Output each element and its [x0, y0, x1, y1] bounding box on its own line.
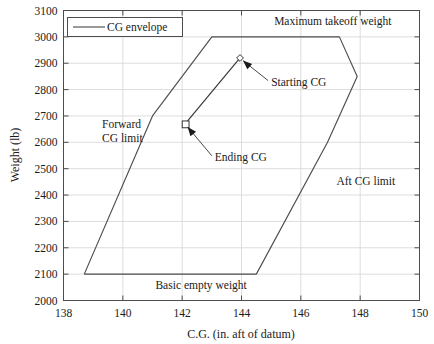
y-tick-label: 3000: [35, 31, 58, 43]
y-tick-label: 2500: [35, 163, 58, 175]
x-axis-title: C.G. (in. aft of datum): [187, 327, 295, 341]
cg-envelope-chart: 138140142144146148150 200021002200230024…: [0, 0, 434, 344]
y-tick-label: 2400: [35, 189, 58, 201]
y-axis-title: Weight (lb): [8, 128, 22, 183]
y-tick-label: 2300: [35, 215, 58, 227]
y-tick-label: 2700: [35, 110, 58, 122]
y-tick-label: 2900: [35, 57, 58, 69]
y-tick-label: 2000: [35, 295, 58, 307]
legend-entry-label: CG envelope: [107, 21, 167, 34]
cg-travel-line: [185, 58, 240, 124]
annotation-label: Ending CG: [215, 151, 267, 164]
x-tick-label: 148: [352, 307, 370, 319]
y-tick-label: 3100: [35, 5, 58, 17]
chart-figure: 138140142144146148150 200021002200230024…: [0, 0, 434, 344]
x-tick-label: 138: [55, 307, 73, 319]
y-tick-labels: 2000210022002300240025002600270028002900…: [35, 5, 58, 307]
annotation-label: Basic empty weight: [155, 279, 247, 292]
x-tick-label: 144: [233, 307, 251, 319]
x-tick-label: 140: [114, 307, 132, 319]
y-tick-label: 2600: [35, 136, 58, 148]
annotation-arrows: [188, 61, 269, 156]
annotation-label: CG limit: [102, 132, 143, 144]
annotation-label: Aft CG limit: [336, 175, 396, 187]
x-tick-label: 142: [174, 307, 192, 319]
x-tick-label: 146: [292, 307, 310, 319]
y-tick-label: 2100: [35, 268, 58, 280]
x-tick-labels: 138140142144146148150: [55, 307, 429, 319]
annotation-labels: Maximum takeoff weightForwardCG limitAft…: [102, 15, 396, 292]
annotation-label: Starting CG: [271, 76, 326, 89]
x-tick-label: 150: [411, 307, 429, 319]
annotation-arrow-head: [243, 61, 252, 70]
annotation-label: Maximum takeoff weight: [274, 15, 392, 28]
y-tick-label: 2200: [35, 242, 58, 254]
annotation-label: Forward: [102, 118, 141, 130]
chart-legend[interactable]: CG envelope: [68, 18, 183, 37]
y-tick-label: 2800: [35, 84, 58, 96]
